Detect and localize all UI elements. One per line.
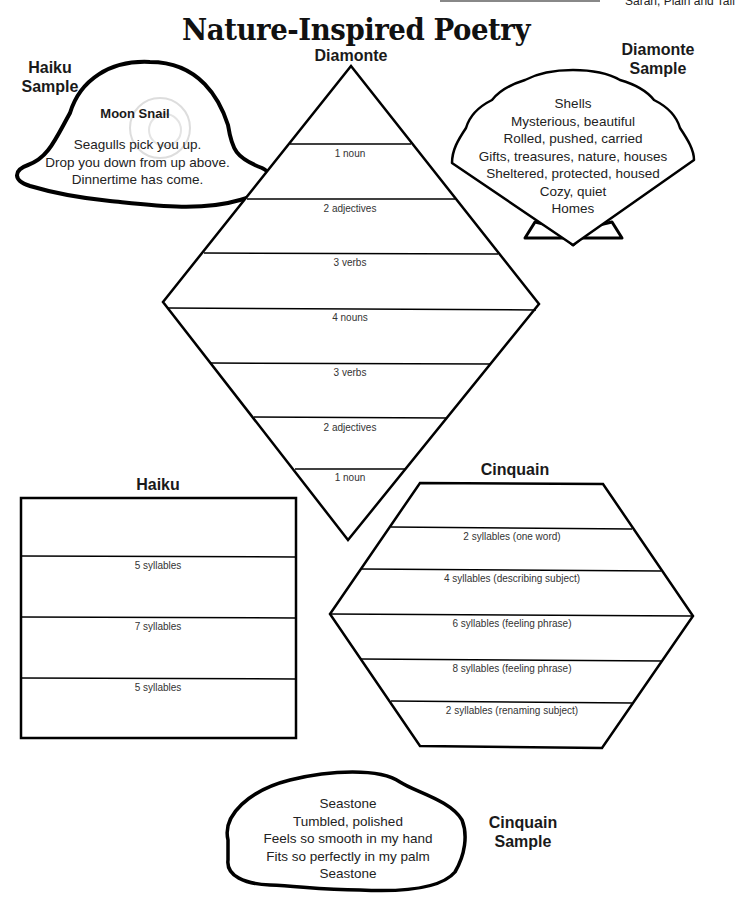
cinquain-sample-poem: Seastone Tumbled, polished Feels so smoo… bbox=[238, 795, 458, 883]
poem-line: Shells bbox=[458, 95, 688, 113]
haiku-sample-poem: Seagulls pick you up. Drop you down from… bbox=[20, 136, 255, 189]
cinquain-heading: Cinquain bbox=[460, 460, 570, 479]
cinquain-row-label: 6 syllables (feeling phrase) bbox=[412, 618, 612, 629]
haiku-row-label: 5 syllables bbox=[108, 682, 208, 693]
heading-line: Sample bbox=[10, 77, 90, 96]
poem-line: Sheltered, protected, housed bbox=[458, 165, 688, 183]
poem-line: Seastone bbox=[238, 795, 458, 813]
diamonte-row-label: 3 verbs bbox=[300, 257, 400, 268]
haiku-box bbox=[21, 498, 296, 738]
cinquain-sample-heading: Cinquain Sample bbox=[478, 813, 568, 851]
cinquain-row-label: 4 syllables (describing subject) bbox=[412, 573, 612, 584]
poem-line: Rolled, pushed, carried bbox=[458, 130, 688, 148]
poem-line: Tumbled, polished bbox=[238, 813, 458, 831]
diamonte-row-label: 3 verbs bbox=[300, 367, 400, 378]
poem-line: Seagulls pick you up. bbox=[20, 136, 255, 154]
haiku-row-label: 7 syllables bbox=[108, 621, 208, 632]
cinquain-row-label: 2 syllables (renaming subject) bbox=[412, 705, 612, 716]
poem-line: Cozy, quiet bbox=[458, 183, 688, 201]
poem-line: Dinnertime has come. bbox=[20, 171, 255, 189]
diamonte-sample-poem: Shells Mysterious, beautiful Rolled, pus… bbox=[458, 95, 688, 218]
poem-line: Mysterious, beautiful bbox=[458, 113, 688, 131]
poem-line: Feels so smooth in my hand bbox=[238, 830, 458, 848]
heading-line: Cinquain bbox=[478, 813, 568, 832]
poem-line: Fits so perfectly in my palm bbox=[238, 848, 458, 866]
cinquain-row-label: 2 syllables (one word) bbox=[412, 531, 612, 542]
heading-line: Sample bbox=[478, 832, 568, 851]
cinquain-row-label: 8 syllables (feeling phrase) bbox=[412, 663, 612, 674]
haiku-heading: Haiku bbox=[108, 475, 208, 494]
heading-line: Diamonte bbox=[608, 40, 708, 59]
poem-line: Homes bbox=[458, 200, 688, 218]
diamonte-row-label: 1 noun bbox=[300, 148, 400, 159]
haiku-row-label: 5 syllables bbox=[108, 560, 208, 571]
diamonte-sample-heading: Diamonte Sample bbox=[608, 40, 708, 78]
diamonte-row-label: 2 adjectives bbox=[300, 422, 400, 433]
haiku-sample-heading: Haiku Sample bbox=[10, 58, 90, 96]
diamonte-row-label: 4 nouns bbox=[300, 312, 400, 323]
heading-line: Haiku bbox=[10, 58, 90, 77]
poem-line: Seastone bbox=[238, 865, 458, 883]
poem-line: Drop you down from up above. bbox=[20, 154, 255, 172]
diamonte-row-label: 1 noun bbox=[300, 472, 400, 483]
heading-line: Sample bbox=[608, 59, 708, 78]
haiku-sample-title: Moon Snail bbox=[60, 106, 210, 121]
diamonte-heading: Diamonte bbox=[281, 46, 421, 65]
poem-line: Gifts, treasures, nature, houses bbox=[458, 148, 688, 166]
diamonte-row-label: 2 adjectives bbox=[300, 203, 400, 214]
